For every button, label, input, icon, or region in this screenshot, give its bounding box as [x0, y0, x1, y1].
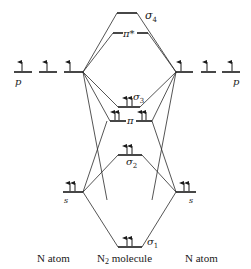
sigma1-orbital: σ1 — [118, 236, 158, 250]
left-p-label: p — [15, 76, 22, 87]
molecule-caption: N2 molecule — [97, 252, 152, 266]
left-atom-caption: N atom — [37, 252, 70, 264]
mo-diagram: p p s s σ4 π* σ3 — [0, 0, 251, 269]
pi-orbitals: π — [110, 112, 152, 126]
pi-star-label: π* — [122, 28, 135, 39]
sigma1-label: σ1 — [147, 236, 158, 250]
left-p-orbitals: p — [14, 62, 83, 87]
left-s-label: s — [64, 196, 68, 205]
pi-label: π — [126, 115, 134, 126]
sigma2-orbital: σ2 — [118, 146, 142, 170]
right-p-orbitals: p — [176, 62, 240, 87]
sigma4-label: σ4 — [145, 9, 158, 24]
sigma3-orbital: σ3 — [118, 91, 144, 107]
right-p-label: p — [233, 76, 240, 87]
sigma4-orbital: σ4 — [117, 9, 158, 24]
sigma3-label: σ3 — [133, 91, 144, 105]
pi-star-orbital: π* — [113, 28, 148, 39]
right-atom-caption: N atom — [185, 252, 218, 264]
right-s-orbital: s — [176, 183, 196, 205]
sigma2-label: σ2 — [126, 156, 137, 170]
right-s-label: s — [189, 196, 193, 205]
left-s-orbital: s — [63, 183, 83, 205]
correlation-lines — [83, 13, 176, 247]
